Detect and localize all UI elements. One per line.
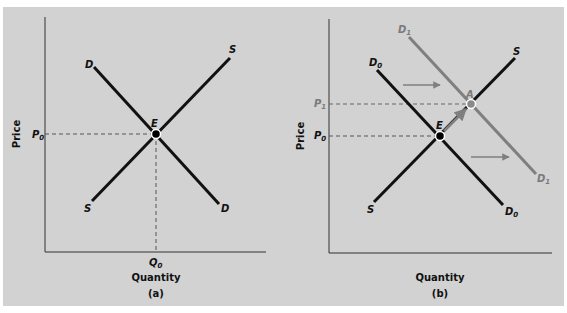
demand-label-bottom: D [221, 203, 229, 214]
equilibrium-label: E [151, 118, 158, 129]
d1-label-top: D1 [398, 24, 411, 37]
equilibrium-label: E [436, 120, 443, 131]
d1-label-bottom: D1 [537, 173, 550, 186]
new-equilibrium-label: A [465, 89, 474, 100]
x-axis-label: Quantity [416, 272, 465, 283]
supply-label-bottom: S [84, 203, 91, 214]
d0-label-bottom: D0 [505, 206, 518, 219]
panel-caption: (b) [432, 288, 448, 299]
x-axis-label: Quantity [132, 272, 181, 283]
supply-label-bottom: S [367, 204, 374, 215]
q0-tick-label: Q0 [149, 257, 163, 270]
p1-tick-label: P1 [314, 98, 326, 111]
demand-label-top: D [85, 59, 93, 70]
movement-arrow-e-to-a [444, 109, 466, 131]
p0-tick-label: P0 [314, 130, 326, 143]
supply-demand-figure: D S E S D P0 Q0 Quantity (a) Price D1 D0… [0, 0, 567, 313]
new-equilibrium-point-a [467, 100, 476, 109]
d0-label-top: D0 [369, 57, 382, 70]
p0-tick-label: P0 [32, 129, 44, 142]
panel-a: D S E S D P0 Q0 Quantity (a) Price [11, 17, 266, 299]
supply-curve [92, 58, 230, 201]
equilibrium-point-e [436, 132, 445, 141]
supply-label-top: S [229, 44, 236, 55]
panel-caption: (a) [148, 288, 164, 299]
equilibrium-point-e [152, 130, 161, 139]
panel-b: D1 D0 S A E P1 P0 S D0 D1 Quantity (b) P… [295, 19, 552, 299]
supply-label-top: S [513, 46, 520, 57]
y-axis-label: Price [295, 122, 306, 151]
y-axis-label: Price [11, 120, 22, 149]
